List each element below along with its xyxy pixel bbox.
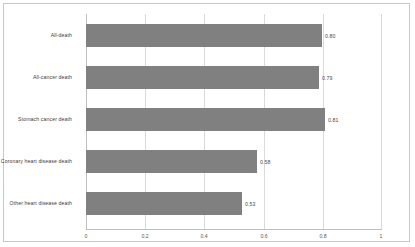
bar-value-all-death: 0.80: [322, 33, 336, 39]
bar-stomach-cancer-death[interactable]: [86, 108, 325, 131]
category-label-stomach-cancer-death: Stomach cancer death: [18, 116, 72, 122]
bar-coronary-heart-disease-death[interactable]: [86, 150, 257, 173]
xtick-label-0-6: 0.6: [260, 233, 267, 239]
bar-row: 0.53: [86, 192, 382, 215]
bar-other-heart-disease-death[interactable]: [86, 192, 242, 215]
bar-row: 0.79: [86, 66, 382, 89]
xtick-label-0-2: 0.2: [141, 233, 148, 239]
xtick-label-0-4: 0.4: [200, 233, 207, 239]
xtick-label-1: 1: [380, 233, 383, 239]
category-label-all-death: All-death: [51, 32, 72, 38]
bar-row: 0.80: [86, 24, 382, 47]
x-axis-line: [86, 229, 382, 230]
bar-all-cancer-death[interactable]: [86, 66, 319, 89]
bar-row: 0.58: [86, 150, 382, 173]
xtick-label-0-8: 0.8: [319, 233, 326, 239]
bar-value-coronary-heart-disease-death: 0.58: [257, 159, 271, 165]
bar-value-other-heart-disease-death: 0.53: [242, 201, 256, 207]
category-label-other-heart-disease-death: Other heart disease death: [10, 200, 72, 206]
category-label-coronary-heart-disease-death: Coronary heart disease death: [1, 158, 72, 164]
chart-frame: All-death All-cancer death Stomach cance…: [3, 3, 410, 242]
bar-row: 0.81: [86, 108, 382, 131]
bar-value-stomach-cancer-death: 0.81: [325, 117, 339, 123]
xtick-label-0: 0: [85, 233, 88, 239]
bar-all-death[interactable]: [86, 24, 322, 47]
category-label-all-cancer-death: All-cancer death: [33, 74, 72, 80]
bar-value-all-cancer-death: 0.79: [319, 75, 333, 81]
